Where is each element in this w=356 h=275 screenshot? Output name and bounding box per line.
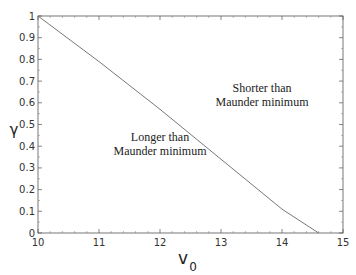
y-tick-label: 0.1 — [19, 206, 35, 217]
annotation-longer-line1: Longer than — [131, 130, 189, 144]
y-tick-label: 0 — [29, 228, 35, 239]
y-tick-label: 0.5 — [19, 119, 35, 130]
y-axis-label: γ — [10, 121, 19, 139]
y-tick-label: 0.6 — [19, 97, 35, 108]
y-tick-label: 0.4 — [19, 141, 35, 152]
x-tick-label: 11 — [93, 237, 106, 248]
x-tick-label: 15 — [337, 237, 350, 248]
annotation-shorter-line1: Shorter than — [233, 81, 292, 95]
x-tick-label: 14 — [276, 237, 289, 248]
x-tick-label: 10 — [32, 237, 45, 248]
chart: 10111213141500.10.20.30.40.50.60.70.80.9… — [0, 0, 356, 275]
annotation-shorter-line2: Maunder minimum — [216, 95, 310, 109]
y-tick-label: 0.2 — [19, 184, 35, 195]
annotation-longer-line2: Maunder minimum — [114, 144, 208, 158]
y-tick-label: 0.3 — [19, 162, 35, 173]
data-line — [38, 16, 319, 233]
plot-frame — [38, 16, 343, 233]
x-tick-label: 12 — [154, 237, 167, 248]
y-tick-label: 0.9 — [19, 32, 35, 43]
x-tick-label: 13 — [215, 237, 228, 248]
y-tick-label: 1 — [29, 11, 35, 22]
y-tick-label: 0.7 — [19, 76, 35, 87]
y-tick-label: 0.8 — [19, 54, 35, 65]
x-axis-label-subscript: 0 — [189, 260, 197, 274]
x-axis-label: v — [178, 248, 188, 268]
